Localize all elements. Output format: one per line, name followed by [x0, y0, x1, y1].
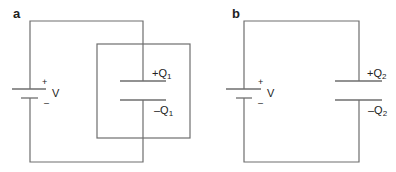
- battery-b-minus: –: [258, 98, 263, 108]
- capacitor-b-top-charge: +Q2: [367, 67, 386, 81]
- capacitor-b-bottom-charge: –Q2: [368, 104, 387, 118]
- circuit-a: [12, 21, 190, 162]
- capacitor-a-top-charge: +Q1: [152, 67, 171, 81]
- circuit-a-wire: [30, 21, 143, 162]
- battery-a-plus: +: [42, 77, 47, 87]
- panel-label-a: a: [13, 6, 20, 21]
- battery-a-minus: –: [44, 98, 49, 108]
- circuit-b: [226, 21, 382, 162]
- circuit-diagram: [0, 0, 396, 172]
- circuit-b-wire: [244, 21, 359, 162]
- panel-label-b: b: [232, 6, 240, 21]
- battery-a-voltage: V: [52, 87, 59, 99]
- capacitor-a-bottom-charge: –Q1: [154, 104, 173, 118]
- battery-b-voltage: V: [267, 87, 274, 99]
- battery-b-plus: +: [258, 77, 263, 87]
